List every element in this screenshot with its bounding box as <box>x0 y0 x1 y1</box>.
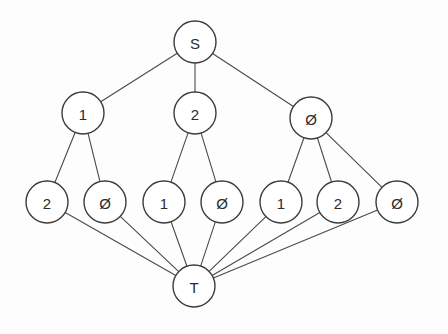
graph-node[interactable]: 2 <box>174 92 216 134</box>
graph-node[interactable]: 2 <box>317 181 359 223</box>
graph-edge <box>120 216 178 271</box>
nodes-layer: S12Ø2Ø1Ø12ØT <box>26 21 418 307</box>
graph-edge <box>201 133 216 182</box>
graph-edge <box>101 53 178 102</box>
node-label: Ø <box>216 195 228 212</box>
edges-layer <box>55 53 382 278</box>
graph-edge <box>88 133 100 181</box>
node-label: 1 <box>79 106 87 123</box>
node-label: 1 <box>277 195 285 212</box>
graph-edge <box>201 222 216 266</box>
node-label: T <box>189 279 198 296</box>
graph-node[interactable]: Ø <box>290 97 332 139</box>
graph-edge <box>326 133 382 188</box>
graph-node[interactable]: Ø <box>84 181 126 223</box>
node-label: S <box>190 35 200 52</box>
node-label: 2 <box>43 195 51 212</box>
node-label: Ø <box>391 195 403 212</box>
diagram-canvas: S12Ø2Ø1Ø12ØT <box>0 0 448 334</box>
graph-edge <box>171 222 187 266</box>
graph-node[interactable]: S <box>174 21 216 63</box>
graph-node[interactable]: 2 <box>26 181 68 223</box>
graph-node[interactable]: 1 <box>260 181 302 223</box>
graph-node[interactable]: 1 <box>143 181 185 223</box>
graph-svg: S12Ø2Ø1Ø12ØT <box>0 0 448 334</box>
node-label: Ø <box>305 111 317 128</box>
graph-edge <box>288 138 304 182</box>
node-label: Ø <box>99 195 111 212</box>
graph-edge <box>209 217 266 272</box>
graph-edge <box>213 54 294 107</box>
node-label: 2 <box>334 195 342 212</box>
graph-node[interactable]: Ø <box>201 181 243 223</box>
graph-edge <box>317 138 331 182</box>
node-label: 1 <box>160 195 168 212</box>
graph-node[interactable]: Ø <box>376 181 418 223</box>
graph-node[interactable]: T <box>173 265 215 307</box>
node-label: 2 <box>191 106 199 123</box>
graph-edge <box>55 132 75 182</box>
graph-node[interactable]: 1 <box>62 92 104 134</box>
graph-edge <box>171 133 188 182</box>
